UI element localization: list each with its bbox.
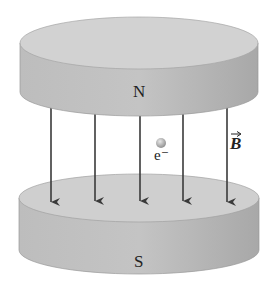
electron-label: e⁻ bbox=[154, 146, 169, 164]
magnetic-field-diagram bbox=[0, 0, 264, 284]
north-label: N bbox=[133, 82, 145, 102]
field-label: B bbox=[230, 134, 241, 154]
south-label: S bbox=[134, 252, 143, 272]
